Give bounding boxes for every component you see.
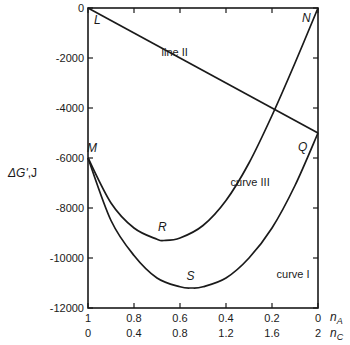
x-axis-title-nA: nA [330, 310, 343, 326]
plot-frame [88, 8, 318, 308]
x-tick-label-nA: 0.6 [172, 312, 187, 324]
curve-i-path [88, 133, 318, 288]
y-tick-label: -6000 [56, 152, 84, 164]
x-tick-label-nC: 0.4 [126, 327, 141, 339]
annotation-curve-i: curve I [277, 268, 310, 280]
x-tick-label-nC: 2 [315, 327, 321, 339]
x-axis-title-nC: nC [330, 326, 344, 342]
x-tick-label-nC: 0 [85, 327, 91, 339]
annotation-line-ii: line II [162, 46, 188, 58]
x-tick-label-nA: 0 [315, 312, 321, 324]
x-tick-label-nA: 1 [85, 312, 91, 324]
x-axis-ticks: 100.80.40.60.80.41.20.21.602 [85, 8, 321, 339]
x-tick-label-nA: 0.8 [126, 312, 141, 324]
x-tick-label-nA: 0.4 [218, 312, 233, 324]
annotation-curve-iii: curve III [231, 176, 270, 188]
y-tick-label: -12000 [50, 302, 84, 314]
x-tick-label-nC: 1.2 [218, 327, 233, 339]
annotation-n: N [302, 11, 311, 25]
annotation-r: R [158, 220, 167, 234]
x-tick-label-nC: 1.6 [264, 327, 279, 339]
y-tick-label: -4000 [56, 102, 84, 114]
data-series [88, 8, 318, 288]
annotation-s: S [187, 269, 195, 283]
annotation-l: L [94, 13, 101, 27]
x-tick-label-nA: 0.2 [264, 312, 279, 324]
line-ii-path [88, 8, 318, 133]
gibbs-energy-chart: 0-2000-4000-6000-8000-10000-12000 100.80… [0, 0, 350, 345]
y-axis-title: ΔG',J [7, 166, 37, 180]
y-tick-label: 0 [78, 2, 84, 14]
y-tick-label: -2000 [56, 52, 84, 64]
x-tick-label-nC: 0.8 [172, 327, 187, 339]
annotations: LMNQRSline IIcurve IIIcurve I [87, 11, 311, 283]
annotation-q: Q [298, 140, 307, 154]
annotation-m: M [87, 141, 97, 155]
y-tick-label: -10000 [50, 252, 84, 264]
curve-iii-path [88, 8, 318, 241]
y-tick-label: -8000 [56, 202, 84, 214]
